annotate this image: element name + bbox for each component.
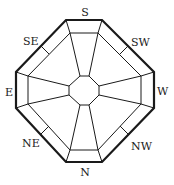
label-top-left: SE — [23, 35, 39, 48]
label-top-right: SW — [131, 36, 151, 49]
label-left: E — [5, 86, 13, 99]
diagonal-band-ticks — [41, 46, 128, 134]
label-bottom-right: NW — [131, 140, 153, 153]
compass-octagon-diagram: S SW W NW N NE E SE — [0, 0, 174, 185]
label-bottom: N — [80, 166, 90, 179]
label-right: W — [157, 85, 169, 98]
inner-octagon — [69, 76, 99, 105]
label-bottom-left: NE — [22, 137, 40, 150]
label-top: S — [81, 6, 89, 19]
